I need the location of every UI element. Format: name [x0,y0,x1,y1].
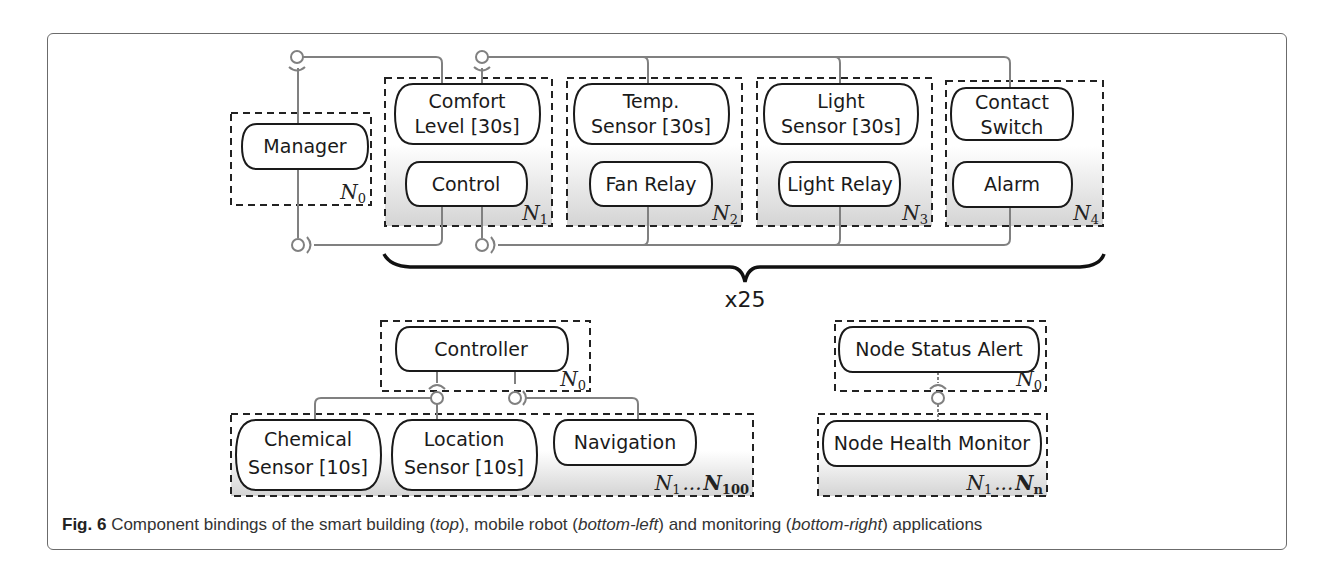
provided-interface-icon [292,239,304,251]
required-interface-icon [491,237,495,253]
component-label: Light [817,90,864,112]
node-label-n1-nn: N1...Nn [965,471,1043,497]
component-label: Alarm [984,173,1040,195]
replication-multiplier: x25 [724,287,765,312]
component-label: Sensor [10s] [248,456,368,478]
component-label: Navigation [574,431,676,453]
component-label: Fan Relay [605,173,696,195]
figure-number: Fig. 6 [62,515,106,534]
component-label: Sensor [10s] [404,456,524,478]
provided-interface-icon [932,392,944,404]
component-label: Light Relay [787,173,893,195]
provided-interface-icon [509,392,521,404]
provided-interface-icon [476,51,488,63]
component-label: Sensor [30s] [591,115,711,137]
required-interface-icon [523,391,526,405]
component-label: Temp. [622,90,680,112]
component-label: Location [424,428,504,450]
replication-brace [384,254,1104,282]
component-binding-diagram: Manager Comfort Level [30s] Control Temp… [0,0,1333,576]
component-label: Node Status Alert [855,338,1022,360]
figure-caption: Fig. 6 Component bindings of the smart b… [62,515,982,535]
component-label: Sensor [30s] [781,115,901,137]
provided-interface-icon [431,392,443,404]
mobile-robot-diagram: Controller Chemical Sensor [10s] Locatio… [231,321,753,497]
component-label: Comfort [429,90,506,112]
component-label: Level [30s] [414,115,519,137]
provided-interface-icon [291,51,303,63]
component-label: Controller [434,338,528,360]
smart-building-diagram: Manager Comfort Level [30s] Control Temp… [231,51,1104,312]
provided-interface-icon [476,239,488,251]
component-label: Switch [981,116,1044,138]
component-label: Chemical [264,428,352,450]
component-label: Control [432,173,501,195]
component-label: Contact [975,91,1049,113]
required-interface-icon [307,237,311,253]
component-label: Node Health Monitor [834,432,1030,454]
component-label: Manager [263,135,346,157]
monitoring-diagram: Node Status Alert Node Health Monitor N0… [818,321,1047,497]
